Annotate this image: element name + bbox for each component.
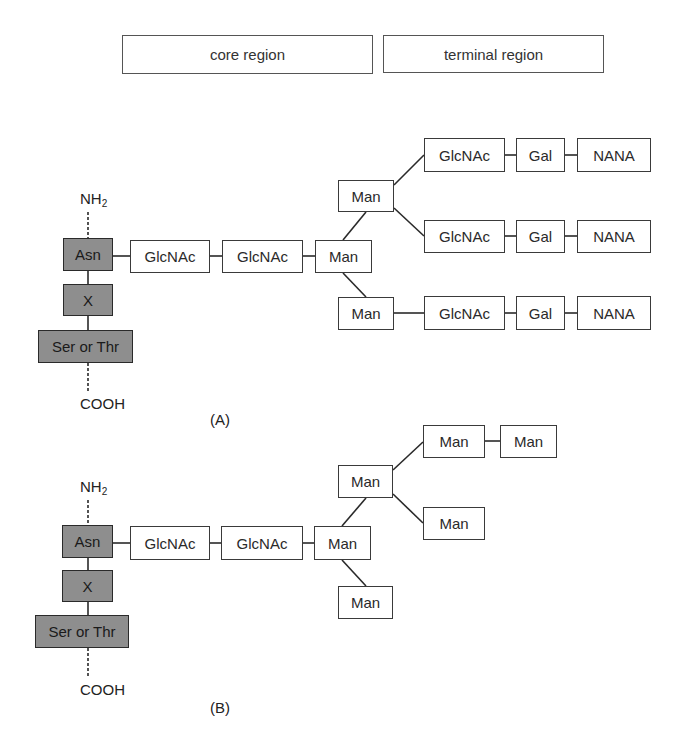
- branch3-gal: Gal: [516, 296, 565, 330]
- c-terminus-label: COOH: [80, 681, 125, 698]
- branch3-glcnac: GlcNAc: [424, 296, 505, 330]
- nh-subscript: 2: [102, 486, 108, 497]
- sugar-man-upper: Man: [338, 465, 393, 498]
- n-terminus-label: NH2: [80, 190, 107, 209]
- sugar-glcnac-1: GlcNAc: [130, 240, 210, 273]
- amino-acid-asn: Asn: [62, 525, 113, 558]
- branch1-man-2: Man: [500, 425, 557, 458]
- nh-subscript: 2: [102, 198, 108, 209]
- panel-a-caption: (A): [210, 411, 230, 428]
- amino-acid-x: X: [62, 570, 113, 602]
- core-region-label: core region: [122, 35, 373, 74]
- sugar-glcnac-2: GlcNAc: [221, 526, 303, 560]
- n-terminus-label: NH2: [80, 478, 107, 497]
- branch1-man-1: Man: [423, 425, 485, 458]
- branch2-nana: NANA: [577, 220, 651, 253]
- nh-text: NH: [80, 478, 102, 495]
- sugar-man-central: Man: [314, 526, 371, 560]
- sugar-man-lower: Man: [338, 586, 393, 619]
- branch3-nana: NANA: [577, 296, 651, 330]
- c-terminus-label: COOH: [80, 395, 125, 412]
- panel-b-caption: (B): [210, 699, 230, 716]
- amino-acid-x: X: [63, 284, 113, 316]
- branch1-gal: Gal: [516, 138, 565, 172]
- sugar-glcnac-2: GlcNAc: [222, 240, 303, 273]
- sugar-glcnac-1: GlcNAc: [130, 526, 210, 560]
- branch2-glcnac: GlcNAc: [424, 220, 505, 253]
- amino-acid-ser-or-thr: Ser or Thr: [35, 615, 129, 648]
- amino-acid-ser-or-thr: Ser or Thr: [38, 330, 133, 363]
- branch2-man: Man: [423, 507, 485, 540]
- branch2-gal: Gal: [516, 220, 565, 253]
- sugar-man-central: Man: [315, 240, 372, 273]
- branch1-nana: NANA: [577, 138, 651, 172]
- terminal-region-label: terminal region: [383, 35, 604, 73]
- sugar-man-upper: Man: [338, 180, 394, 212]
- sugar-man-lower: Man: [338, 297, 394, 330]
- nh-text: NH: [80, 190, 102, 207]
- amino-acid-asn: Asn: [63, 238, 113, 271]
- branch1-glcnac: GlcNAc: [424, 138, 505, 172]
